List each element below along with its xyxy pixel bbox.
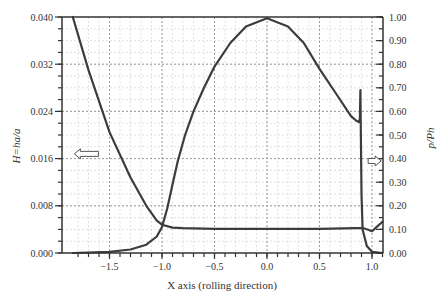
y-right-tick-label: 0.70 <box>389 82 407 93</box>
y-right-tick-label: 0.10 <box>389 224 407 235</box>
y-left-axis-title: H=ha/a <box>10 128 22 164</box>
x-tick-label: 1.0 <box>366 261 379 272</box>
x-tick-label: −0.5 <box>205 261 223 272</box>
x-tick-label: 0.5 <box>313 261 326 272</box>
y-right-tick-label: 0.00 <box>389 248 407 259</box>
y-right-tick-label: 1.00 <box>389 12 407 23</box>
y-right-tick-label: 0.80 <box>389 59 407 70</box>
x-axis-title: X axis (rolling direction) <box>167 279 277 292</box>
y-right-axis-title: p/Ph <box>424 127 436 149</box>
y-right-tick-label: 0.40 <box>389 153 407 164</box>
y-left-tick-label: 0.032 <box>31 59 54 70</box>
y-left-tick-label: 0.000 <box>31 248 54 259</box>
x-axis-ticks: −1.5−1.0−0.50.00.51.0 <box>78 253 383 272</box>
y-right-tick-label: 0.90 <box>389 35 407 46</box>
y-left-axis-ticks: 0.0000.0080.0160.0240.0320.040 <box>31 12 63 259</box>
chart: −1.5−1.0−0.50.00.51.0 0.0000.0080.0160.0… <box>0 0 442 302</box>
x-tick-label: −1.0 <box>153 261 171 272</box>
y-left-tick-label: 0.040 <box>31 12 54 23</box>
y-left-tick-label: 0.016 <box>31 153 54 164</box>
y-left-tick-label: 0.008 <box>31 200 54 211</box>
arrow-right-icon <box>368 156 381 166</box>
y-right-axis-ticks: 0.000.100.200.300.400.500.600.700.800.90… <box>376 12 407 259</box>
y-right-tick-label: 0.60 <box>389 106 407 117</box>
x-tick-label: 0.0 <box>261 261 274 272</box>
y-left-tick-label: 0.024 <box>31 106 54 117</box>
arrow-left-icon <box>74 149 98 159</box>
y-right-tick-label: 0.30 <box>389 177 407 188</box>
y-right-tick-label: 0.20 <box>389 200 407 211</box>
y-right-tick-label: 0.50 <box>389 130 407 141</box>
x-tick-label: −1.5 <box>100 261 118 272</box>
film-thickness-curve <box>73 17 383 231</box>
